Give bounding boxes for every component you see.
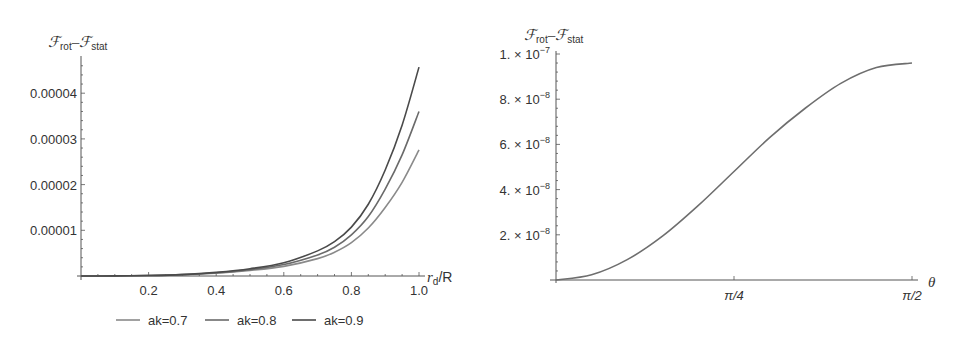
y-tick-label: 0.00001 xyxy=(30,223,77,238)
x-tick-label: 0.4 xyxy=(207,283,225,298)
right-tick-labels: π/4π/22. × 10−84. × 10−86. × 10−88. × 10… xyxy=(500,45,923,303)
series-line xyxy=(81,150,419,276)
left-y-axis-title: ℱrot–ℱstat xyxy=(48,34,108,52)
series-line xyxy=(81,111,419,276)
legend-label: ak=0.9 xyxy=(324,313,363,328)
legend-label: ak=0.7 xyxy=(148,313,187,328)
left-chart: ℱrot–ℱstat 0.20.40.60.81.00.000010.00002… xyxy=(30,34,452,328)
x-tick-label: π/2 xyxy=(902,288,922,303)
y-tick-label: 4. × 10−8 xyxy=(500,181,550,198)
legend-label: ak=0.8 xyxy=(237,313,276,328)
x-tick-label: 0.6 xyxy=(275,283,293,298)
right-axes xyxy=(550,51,918,283)
right-x-axis-title: θ xyxy=(928,274,936,290)
series-line xyxy=(556,63,912,280)
x-tick-label: 1.0 xyxy=(410,283,428,298)
figure: ℱrot–ℱstat 0.20.40.60.81.00.000010.00002… xyxy=(0,0,954,341)
left-x-axis-title: rd/R xyxy=(427,269,452,287)
y-tick-label: 0.00003 xyxy=(30,132,77,147)
left-legend: ak=0.7ak=0.8ak=0.9 xyxy=(116,313,363,328)
x-tick-label: π/4 xyxy=(724,288,744,303)
y-tick-label: 8. × 10−8 xyxy=(500,90,550,107)
x-tick-label: 0.8 xyxy=(342,283,360,298)
left-axes xyxy=(77,56,425,280)
series-line xyxy=(81,67,419,276)
y-tick-label: 0.00004 xyxy=(30,86,77,101)
y-tick-label: 1. × 10−7 xyxy=(500,45,550,62)
left-curves xyxy=(81,67,419,276)
y-tick-label: 0.00002 xyxy=(30,178,77,193)
x-tick-label: 0.2 xyxy=(140,283,158,298)
right-y-axis-title: ℱrot–ℱstat xyxy=(524,27,584,45)
right-curves xyxy=(556,63,912,280)
right-chart: ℱrot–ℱstat π/4π/22. × 10−84. × 10−86. × … xyxy=(500,27,936,303)
left-tick-labels: 0.20.40.60.81.00.000010.000020.000030.00… xyxy=(30,86,428,298)
y-tick-label: 6. × 10−8 xyxy=(500,135,550,152)
y-tick-label: 2. × 10−8 xyxy=(500,226,550,243)
